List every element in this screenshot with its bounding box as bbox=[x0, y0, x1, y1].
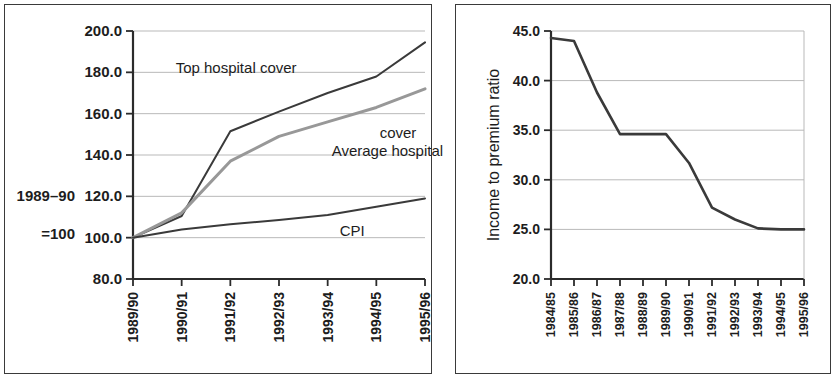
x-tick-label: 1993/94 bbox=[751, 292, 765, 337]
y-tick-label: 80.0 bbox=[93, 270, 122, 287]
x-tick-label: 1995/96 bbox=[797, 292, 811, 337]
series-line-income-to-premium-ratio bbox=[551, 38, 804, 229]
y-tick-label: 180.0 bbox=[84, 63, 122, 80]
x-tick-label: 1988/89 bbox=[636, 292, 650, 337]
x-tick-label: 1994/95 bbox=[774, 292, 788, 337]
y-tick-label: 200.0 bbox=[84, 22, 122, 39]
x-tick-label: 1990/91 bbox=[682, 292, 696, 337]
x-tick-label: 1990/91 bbox=[174, 292, 190, 343]
x-tick-label: 1995/96 bbox=[417, 292, 433, 343]
right-plot-area: 20.025.030.035.040.045.01984/851985/8619… bbox=[456, 5, 830, 373]
x-tick-label: 1985/86 bbox=[567, 292, 581, 337]
x-tick-label: 1993/94 bbox=[320, 292, 336, 343]
y-axis-note-line2: =100 bbox=[41, 225, 75, 242]
x-tick-label: 1992/93 bbox=[728, 292, 742, 337]
y-tick-label: 120.0 bbox=[84, 187, 122, 204]
y-tick-label: 25.0 bbox=[513, 221, 540, 237]
y-tick-label: 100.0 bbox=[84, 229, 122, 246]
left-plot-area: 80.0100.0120.0140.0160.0180.0200.01989/9… bbox=[5, 5, 431, 373]
x-tick-label: 1991/92 bbox=[705, 292, 719, 337]
left-line-chart: 80.0100.0120.0140.0160.0180.0200.01989/9… bbox=[5, 5, 433, 375]
right-chart-panel: 20.025.030.035.040.045.01984/851985/8619… bbox=[455, 4, 831, 374]
x-tick-label: 1994/95 bbox=[368, 292, 384, 343]
annotation-top-hospital-cover: Top hospital cover bbox=[176, 59, 297, 76]
annotation-average-hospital-cover-line2: cover bbox=[380, 124, 417, 141]
figure-container: 80.0100.0120.0140.0160.0180.0200.01989/9… bbox=[0, 0, 835, 378]
y-tick-label: 20.0 bbox=[513, 271, 540, 287]
right-line-chart: 20.025.030.035.040.045.01984/851985/8619… bbox=[456, 5, 832, 375]
x-tick-label: 1991/92 bbox=[222, 292, 238, 343]
annotation-cpi: CPI bbox=[340, 222, 365, 239]
x-tick-label: 1989/90 bbox=[659, 292, 673, 337]
y-tick-label: 40.0 bbox=[513, 73, 540, 89]
y-tick-label: 35.0 bbox=[513, 122, 540, 138]
y-tick-label: 45.0 bbox=[513, 23, 540, 39]
left-chart-panel: 80.0100.0120.0140.0160.0180.0200.01989/9… bbox=[4, 4, 432, 374]
annotation-average-hospital-cover-line1: Average hospital bbox=[332, 142, 443, 159]
y-axis-title: Income to premium ratio bbox=[485, 69, 502, 242]
x-tick-label: 1987/88 bbox=[613, 292, 627, 337]
y-tick-label: 30.0 bbox=[513, 172, 540, 188]
y-tick-label: 140.0 bbox=[84, 146, 122, 163]
x-tick-label: 1989/90 bbox=[125, 292, 141, 343]
y-axis-note-line1: 1989–90 bbox=[17, 187, 75, 204]
y-tick-label: 160.0 bbox=[84, 105, 122, 122]
x-tick-label: 1992/93 bbox=[271, 292, 287, 343]
x-tick-label: 1986/87 bbox=[590, 292, 604, 337]
x-tick-label: 1984/85 bbox=[544, 292, 558, 337]
